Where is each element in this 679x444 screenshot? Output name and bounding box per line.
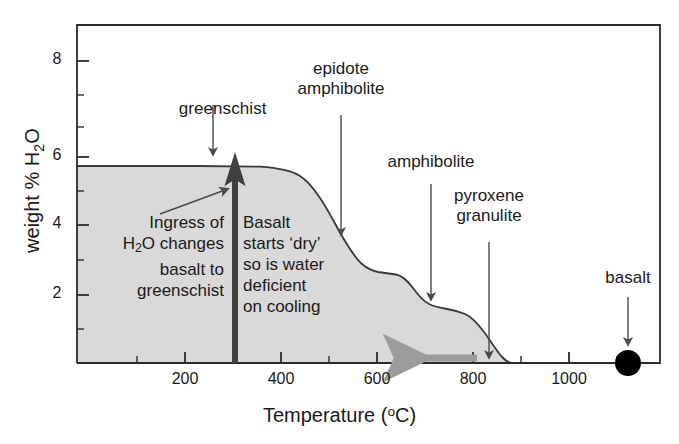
y-tick-2-text: 2	[53, 284, 62, 301]
x-tick-800-text: 800	[460, 370, 487, 387]
annotation-ingress-note: Ingress ofH2O changesbasalt togreenschis…	[86, 212, 224, 301]
dry-line5: on cooling	[243, 297, 321, 316]
ingress-line3: basalt to	[160, 260, 224, 279]
y-axis-title-subscript: 2	[31, 144, 47, 152]
annotation-dry-note: Basaltstarts ‘dry’so is waterdeficienton…	[243, 212, 373, 317]
ingress-line1: Ingress of	[149, 213, 224, 232]
dry-line3: so is water	[243, 255, 324, 274]
y-tick-4-text: 4	[53, 214, 62, 231]
y-tick-6-text: 6	[53, 146, 62, 163]
y-axis-title: weight % H2O	[21, 91, 46, 291]
x-axis-title-degree: o	[387, 404, 395, 419]
epidote-line1: epidote	[313, 59, 369, 78]
annotation-pyroxene-granulite: pyroxene granulite	[414, 186, 564, 226]
ingress-line2-rest: O changes	[142, 234, 224, 253]
x-tick-400: 400	[251, 370, 311, 388]
x-tick-1000: 1000	[539, 370, 599, 388]
x-axis-title-a: Temperature (	[263, 404, 388, 426]
ingress-line2-h: H	[123, 234, 135, 253]
greenschist-text: greenschist	[179, 99, 267, 118]
pyroxene-line1: pyroxene	[454, 186, 524, 205]
y-axis-title-a: weight % H	[21, 152, 43, 253]
annotation-epidote-amphibolite: epidote amphibolite	[266, 59, 416, 99]
chart-figure: greenschist epidote amphibolite amphibol…	[0, 0, 679, 444]
dry-line2: starts ‘dry’	[243, 234, 320, 253]
x-tick-600-text: 600	[364, 370, 391, 387]
y-tick-6: 6	[46, 146, 68, 164]
dry-line1: Basalt	[243, 213, 290, 232]
x-tick-600: 600	[347, 370, 407, 388]
x-tick-200-text: 200	[172, 370, 199, 387]
y-axis-title-b: O	[21, 128, 43, 144]
dry-line4: deficient	[243, 276, 306, 295]
y-tick-2: 2	[46, 284, 68, 302]
annotation-amphibolite: amphibolite	[356, 152, 506, 172]
x-tick-400-text: 400	[268, 370, 295, 387]
x-tick-800: 800	[443, 370, 503, 388]
y-tick-8-text: 8	[53, 50, 62, 67]
epidote-line2: amphibolite	[298, 79, 385, 98]
ingress-line4: greenschist	[137, 281, 224, 300]
basalt-data-point	[615, 350, 641, 376]
x-axis-title-b: C)	[395, 404, 416, 426]
amphibolite-text: amphibolite	[388, 152, 475, 171]
x-tick-200: 200	[155, 370, 215, 388]
ingress-line2-subscript: 2	[135, 241, 142, 255]
pyroxene-line2: granulite	[456, 206, 521, 225]
y-tick-8: 8	[46, 50, 68, 68]
x-tick-1000-text: 1000	[551, 370, 587, 387]
annotation-basalt: basalt	[578, 268, 678, 288]
x-axis-title: Temperature (oC)	[0, 404, 679, 427]
annotation-greenschist: greenschist	[143, 79, 283, 139]
y-tick-4: 4	[46, 214, 68, 232]
basalt-text: basalt	[605, 268, 650, 287]
